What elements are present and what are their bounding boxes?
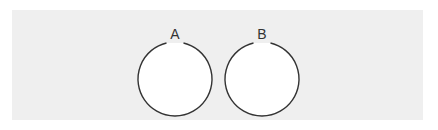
set-b-circle — [225, 43, 299, 116]
set-b: B — [225, 26, 299, 116]
set-diagram: A B — [0, 0, 438, 130]
set-a-circle — [138, 43, 212, 116]
set-a: A — [138, 26, 212, 116]
set-a-label: A — [170, 26, 180, 42]
set-b-label: B — [257, 26, 266, 42]
